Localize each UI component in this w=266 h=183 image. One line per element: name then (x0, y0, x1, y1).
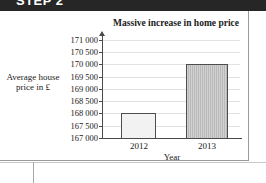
bar-2012 (121, 113, 156, 139)
bottom-strip-top-divider (0, 162, 266, 163)
gridline (102, 40, 240, 41)
y-tick-label: 167 500 (56, 122, 98, 131)
x-tick-label-2012: 2012 (116, 141, 162, 151)
step-header-band: STEP 2 (0, 0, 266, 11)
step-label: STEP 2 (16, 0, 64, 8)
bottom-strip-vertical-divider (33, 162, 34, 183)
chart-title: Massive increase in home price (96, 18, 256, 28)
y-tick (99, 113, 103, 114)
y-tick-label: 171 000 (56, 36, 98, 45)
x-axis-title: Year (102, 152, 242, 162)
y-tick (99, 77, 103, 78)
y-tick-label: 168 000 (56, 109, 98, 118)
x-tick-label-2013: 2013 (184, 141, 230, 151)
gridline (102, 52, 240, 53)
y-tick (99, 89, 103, 90)
y-tick (99, 126, 103, 127)
bottom-strip (0, 162, 266, 183)
y-tick-label: 168 500 (56, 97, 98, 106)
y-tick-label: 169 000 (56, 85, 98, 94)
page-right-gutter (250, 11, 266, 161)
y-tick-label: 170 500 (56, 48, 98, 57)
y-tick (99, 101, 103, 102)
y-tick (99, 52, 103, 53)
bar-2013 (186, 64, 228, 139)
y-tick (99, 40, 103, 41)
y-tick-label: 170 000 (56, 60, 98, 69)
y-tick (99, 138, 103, 139)
y-tick-label: 167 000 (56, 134, 98, 143)
y-tick-label: 169 500 (56, 73, 98, 82)
x-axis-line (102, 138, 242, 139)
y-axis-arrow-icon (99, 31, 105, 36)
y-tick (99, 64, 103, 65)
